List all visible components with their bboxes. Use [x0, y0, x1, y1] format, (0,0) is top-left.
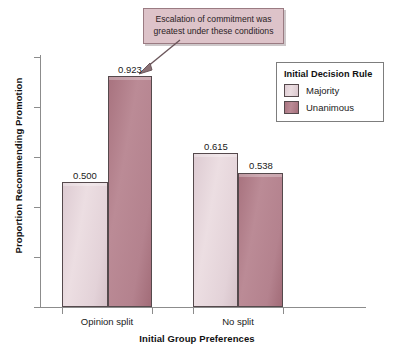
bar-chart-figure: Escalation of commitment was greatest un…: [0, 0, 394, 348]
y-tick-0: [34, 307, 41, 308]
x-tick-left-1: [62, 308, 63, 314]
bar-unanimous-opinion-split[interactable]: [108, 76, 152, 307]
bar-value-majority-opinion-split: 0.500: [73, 170, 97, 181]
x-tick-right-1: [152, 308, 153, 314]
y-axis-title: Proportion Recommending Promotion: [13, 56, 24, 276]
legend-title: Initial Decision Rule: [284, 69, 376, 79]
x-tick-left-2: [193, 308, 194, 314]
bar-value-majority-no-split: 0.615: [204, 141, 228, 152]
x-category-label-opinion-split: Opinion split: [81, 316, 133, 327]
legend-item-majority[interactable]: Majority: [284, 84, 376, 97]
annotation-callout: Escalation of commitment was greatest un…: [143, 8, 284, 44]
bar-value-unanimous-opinion-split: 0.923: [118, 64, 142, 75]
x-category-label-no-split: No split: [222, 316, 254, 327]
annotation-line-1: Escalation of commitment was: [149, 14, 278, 26]
legend-swatch-unanimous-icon: [284, 101, 299, 114]
bar-value-unanimous-no-split: 0.538: [249, 160, 273, 171]
bar-unanimous-no-split[interactable]: [238, 173, 283, 308]
legend-swatch-majority-icon: [284, 84, 299, 97]
legend-label-unanimous: Unanimous: [306, 103, 354, 113]
x-axis-title: Initial Group Preferences: [0, 333, 394, 344]
x-tick-right-2: [283, 308, 284, 314]
annotation-line-2: greatest under these conditions: [149, 26, 278, 38]
x-axis-line: [40, 307, 366, 308]
legend: Initial Decision Rule Majority Unanimous: [276, 62, 384, 122]
bar-majority-opinion-split[interactable]: [62, 182, 108, 307]
bar-majority-no-split[interactable]: [193, 153, 238, 307]
legend-label-majority: Majority: [306, 86, 339, 96]
legend-item-unanimous[interactable]: Unanimous: [284, 101, 376, 114]
